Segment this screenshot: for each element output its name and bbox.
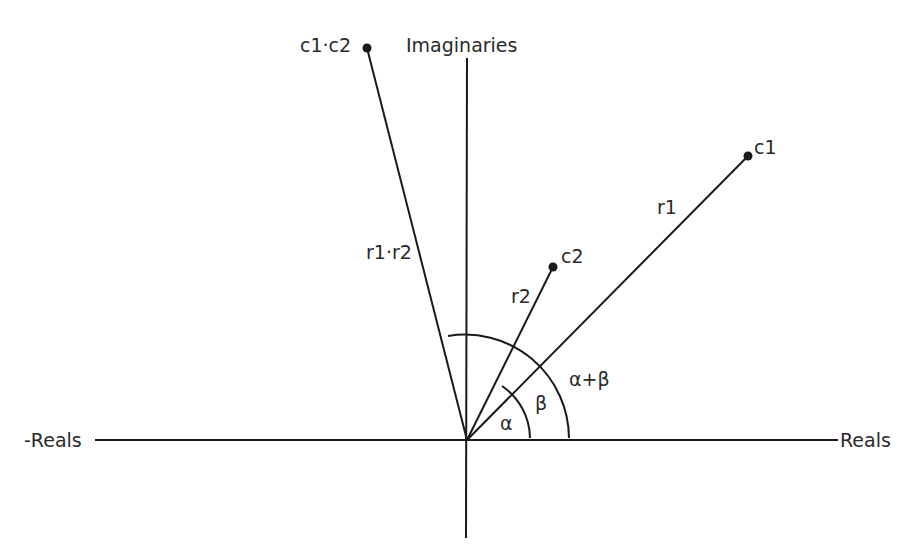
label-c1: c1 — [754, 138, 777, 157]
label-reals: Reals — [840, 431, 891, 450]
label-alpha: α — [500, 414, 513, 433]
point-c2 — [549, 263, 558, 272]
vector-c1 — [467, 156, 748, 440]
point-c1 — [744, 152, 753, 161]
complex-plane-diagram — [0, 0, 922, 560]
label-imaginaries: Imaginaries — [406, 36, 517, 55]
label-r1: r1 — [657, 198, 677, 217]
imaginary-axis — [466, 58, 467, 538]
label-r2: r2 — [511, 287, 531, 306]
point-c1c2 — [363, 44, 372, 53]
label-alpha-plus-beta: α+β — [569, 370, 610, 389]
label-neg-reals: -Reals — [24, 431, 82, 450]
label-r1r2: r1·r2 — [366, 243, 412, 262]
label-beta: β — [535, 394, 547, 413]
label-c2: c2 — [561, 247, 584, 266]
label-c1c2: c1·c2 — [300, 36, 351, 55]
